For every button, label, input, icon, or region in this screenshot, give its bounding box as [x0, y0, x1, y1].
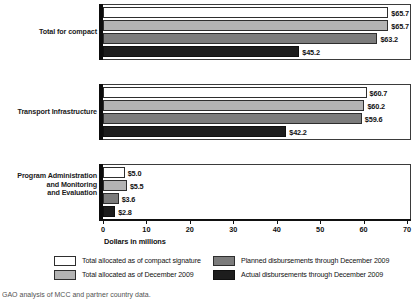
bar-0-2	[103, 33, 377, 44]
legend-swatch-icon	[213, 256, 235, 266]
x-axis-tick-label: 50	[306, 225, 334, 234]
bar-1-3	[103, 126, 286, 137]
x-axis-title: Dollars in millions	[104, 237, 166, 246]
x-axis-tick-label: 40	[263, 225, 291, 234]
x-axis-tick	[277, 221, 278, 224]
x-axis-tick	[103, 221, 104, 224]
legend-label: Total allocated as of compact signature	[82, 257, 201, 265]
bar-2-2	[103, 193, 119, 204]
bar-1-0	[103, 87, 367, 98]
bar-value-label: $65.7	[391, 22, 409, 31]
x-axis-tick-label: 30	[219, 225, 247, 234]
x-axis-tick-label: 70	[393, 225, 419, 234]
x-axis-tick	[190, 221, 191, 224]
legend-label: Planned disbursements through December 2…	[241, 257, 389, 265]
legend-label: Total allocated as of December 2009	[82, 271, 194, 279]
bar-value-label: $45.2	[302, 48, 320, 57]
x-axis-tick	[233, 221, 234, 224]
bar-0-1	[103, 20, 388, 31]
bar-value-label: $2.8	[118, 208, 132, 217]
bar-1-2	[103, 113, 362, 124]
bar-value-label: $63.2	[380, 35, 398, 44]
bar-value-label: $42.2	[289, 128, 307, 137]
x-axis-tick	[364, 221, 365, 224]
source-note: GAO analysis of MCC and partner country …	[2, 291, 302, 300]
bar-value-label: $60.2	[367, 102, 385, 111]
group-box-2	[102, 164, 411, 220]
chart-legend: Total allocated as of compact signatureT…	[0, 256, 419, 286]
x-axis-tick	[320, 221, 321, 224]
legend-swatch-icon	[54, 270, 76, 280]
bar-value-label: $5.0	[128, 169, 142, 178]
x-axis-tick	[407, 221, 408, 224]
x-axis-tick-label: 60	[350, 225, 378, 234]
bar-0-0	[103, 7, 388, 18]
bar-2-0	[103, 167, 125, 178]
x-axis-tick	[146, 221, 147, 224]
x-axis-tick-label: 0	[89, 225, 117, 234]
bar-value-label: $59.6	[365, 115, 383, 124]
bar-value-label: $5.5	[130, 182, 144, 191]
legend-swatch-icon	[213, 270, 235, 280]
bar-value-label: $3.6	[122, 195, 136, 204]
bar-0-3	[103, 46, 299, 57]
bar-chart: Total for compact$65.7$65.7$63.2$45.2Tra…	[0, 0, 419, 300]
category-label-2: Program Administrationand Monitoringand …	[2, 172, 97, 198]
legend-swatch-icon	[54, 256, 76, 266]
x-axis-tick-label: 10	[132, 225, 160, 234]
bar-2-1	[103, 180, 127, 191]
bar-value-label: $65.7	[391, 9, 409, 18]
bar-2-3	[103, 206, 115, 217]
bar-1-1	[103, 100, 364, 111]
category-label-0: Total for compact	[2, 28, 97, 37]
legend-label: Actual disbursements through December 20…	[241, 271, 383, 279]
bar-value-label: $60.7	[370, 89, 388, 98]
plot-area: Total for compact$65.7$65.7$63.2$45.2Tra…	[0, 0, 419, 300]
x-axis-tick-label: 20	[176, 225, 204, 234]
category-label-1: Transport Infrastructure	[2, 108, 97, 117]
category-label-line: and Evaluation	[2, 189, 97, 198]
